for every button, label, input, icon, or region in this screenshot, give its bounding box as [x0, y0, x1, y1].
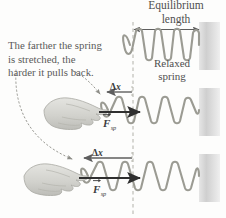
wall-blocks — [199, 22, 220, 202]
hand-grip-1 — [44, 98, 108, 130]
delta-x-variable-2: x — [98, 148, 103, 158]
force-letter-2: F — [93, 183, 100, 195]
caption-text: The farther the spring is stretched, the… — [8, 39, 102, 80]
delta-x-variable-1: x — [116, 82, 121, 92]
force-subscript-1: sp — [111, 124, 116, 131]
stretched-spring-panel-small — [44, 86, 199, 130]
hand-grip-2 — [24, 164, 88, 196]
delta-x-label-2: Δx — [92, 148, 103, 158]
relaxed-spring — [123, 29, 199, 61]
wall-block-bottom — [199, 154, 220, 202]
stretched-spring-panel-large — [24, 152, 199, 196]
force-letter-1: F — [103, 117, 110, 129]
relaxed-spring-label: Relaxed spring — [141, 57, 203, 83]
wall-block-middle — [199, 88, 220, 136]
spring-force-diagram: Equilibrium length The farther the sprin… — [0, 0, 226, 218]
force-symbol-2: F — [93, 183, 100, 195]
vector-arrow-icon-1 — [103, 112, 111, 117]
delta-x-label-1: Δx — [110, 82, 121, 92]
force-subscript-2: sp — [101, 190, 106, 197]
vector-arrow-icon-2 — [93, 178, 101, 183]
spring-force-label-2: Fsp — [93, 183, 106, 197]
equilibrium-length-label: Equilibrium length — [128, 0, 224, 26]
spring-force-label-1: Fsp — [103, 117, 116, 131]
force-symbol-1: F — [103, 117, 110, 129]
diagram-graphics — [0, 0, 226, 218]
